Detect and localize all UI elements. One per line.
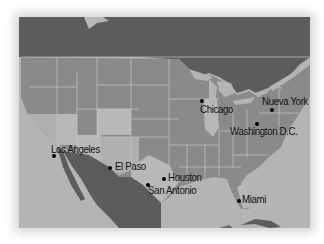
- map-shapes: [19, 17, 310, 228]
- city-dot-icon: [162, 177, 166, 181]
- city-dot-icon: [270, 108, 274, 112]
- city-label: El Paso: [115, 161, 146, 172]
- city-label: Nueva York: [262, 96, 308, 107]
- city-label: Houston: [168, 172, 202, 183]
- city-dot-icon: [108, 166, 112, 170]
- city-label: San Antonio: [148, 185, 196, 196]
- city-dot-icon: [237, 199, 241, 203]
- city-label: Miami: [242, 194, 266, 205]
- city-label: Washington D.C.: [230, 126, 298, 137]
- map-image: Chicago Nueva York Washington D.C. Los A…: [19, 17, 310, 228]
- city-label: Chicago: [200, 104, 233, 115]
- city-label: Los Angeles: [51, 144, 100, 155]
